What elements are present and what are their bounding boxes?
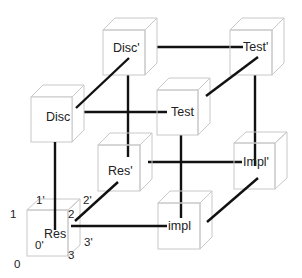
link-res-res-prime — [75, 182, 118, 221]
corner-label-2-prime: 2' — [83, 194, 92, 206]
cube-diagram: Disc' Test' Disc Test Res' Impl' impl Re… — [0, 0, 302, 278]
corner-label-0: 0 — [14, 258, 20, 270]
cube-res-prime — [98, 133, 152, 191]
corner-label-1: 1 — [10, 208, 16, 220]
corner-label-3: 3 — [68, 249, 74, 261]
node-label-impl-prime: Impl' — [243, 155, 269, 169]
node-label-test-prime: Test' — [243, 40, 268, 54]
node-label-res-prime: Res' — [108, 164, 133, 178]
link-impl-impl-prime — [207, 178, 258, 222]
corner-label-0-prime: 0' — [35, 239, 44, 251]
node-label-test: Test — [171, 105, 194, 119]
node-label-disc: Disc — [46, 110, 70, 124]
corner-label-3-prime: 3' — [84, 236, 93, 248]
node-label-impl: impl — [168, 219, 191, 233]
node-label-disc-prime: Disc' — [113, 41, 140, 55]
corner-label-1-prime: 1' — [36, 194, 45, 206]
node-label-res: Res — [44, 227, 66, 241]
corner-label-2: 2 — [68, 208, 74, 220]
